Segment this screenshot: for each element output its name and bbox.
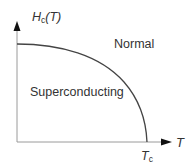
y-axis-arrow-icon — [14, 21, 21, 31]
x-axis-label: T — [176, 135, 185, 150]
x-axis-arrow-icon — [161, 139, 172, 146]
critical-temperature-label: Tc — [141, 149, 154, 164]
phase-diagram: Hc(T) Normal Superconducting T Tc — [0, 0, 196, 167]
region-label-superconducting: Superconducting — [30, 85, 124, 99]
region-label-normal: Normal — [114, 37, 154, 51]
y-axis-label: Hc(T) — [32, 10, 61, 25]
